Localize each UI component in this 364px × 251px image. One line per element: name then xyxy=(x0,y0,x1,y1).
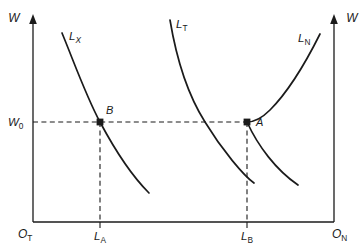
curve-lx-subscript: X xyxy=(74,35,81,45)
ticks-group xyxy=(100,222,247,228)
point-label-b: B xyxy=(106,104,113,116)
points-group: B A xyxy=(97,104,264,128)
point-label-a: A xyxy=(255,116,263,128)
left-axis-arrowhead-icon xyxy=(29,14,37,24)
point-marker-b xyxy=(97,119,104,126)
right-axis-label-w: W xyxy=(346,11,359,25)
right-axis-arrowhead-icon xyxy=(330,14,338,24)
curve-label-ln: LN xyxy=(298,32,310,47)
value-label-labour-b: LB xyxy=(241,230,253,245)
curve-lt-left-branch xyxy=(170,20,254,183)
curve-ln xyxy=(247,34,320,122)
origin-label-right: ON xyxy=(332,227,347,243)
curves-group xyxy=(62,20,320,193)
guide-lines-group xyxy=(33,122,250,222)
labour-b-subscript: B xyxy=(247,235,253,245)
diagram-canvas: W W OT ON LX LT LN xyxy=(0,0,364,251)
curve-lt-right-branch xyxy=(247,122,298,185)
curve-label-lx: LX xyxy=(69,30,81,45)
origin-right-base: O xyxy=(332,227,341,241)
curve-labels-group: LX LT LN xyxy=(69,18,310,47)
point-marker-a xyxy=(244,119,251,126)
origin-right-subscript: N xyxy=(341,233,347,243)
value-labels-group: W0 LA LB xyxy=(8,116,253,245)
value-label-wage-w0: W0 xyxy=(8,116,24,131)
wage-label-subscript: 0 xyxy=(19,121,24,131)
curve-ln-subscript: N xyxy=(304,37,310,47)
labour-a-subscript: A xyxy=(100,235,106,245)
curve-lt-subscript: T xyxy=(182,23,187,33)
origin-left-subscript: T xyxy=(27,233,32,243)
value-label-labour-a: LA xyxy=(94,230,106,245)
labour-market-diagram: W W OT ON LX LT LN xyxy=(0,0,364,251)
axes-group xyxy=(29,14,338,222)
left-axis-label-w: W xyxy=(8,11,21,25)
curve-label-lt: LT xyxy=(176,18,187,33)
origin-label-left: OT xyxy=(18,227,32,243)
origin-left-base: O xyxy=(18,227,27,241)
